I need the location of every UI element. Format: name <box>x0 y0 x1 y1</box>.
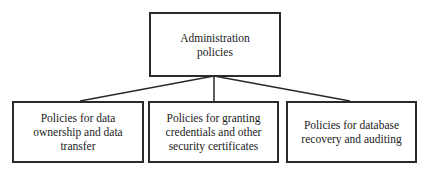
connector-root-right <box>214 76 350 101</box>
connector-root-left <box>80 76 214 101</box>
child-node-database-recovery: Policies for database recovery and audit… <box>286 101 417 163</box>
child-node-1-line-3: transfer <box>29 139 126 153</box>
child-node-2-line-3: security certificates <box>162 139 266 153</box>
child-node-data-ownership: Policies for data ownership and data tra… <box>12 101 144 163</box>
root-node-line-1: Administration <box>176 31 254 45</box>
child-node-2-line-2: credentials and other <box>162 125 266 139</box>
child-node-1-line-1: Policies for data <box>29 111 126 125</box>
root-node-line-2: policies <box>176 45 254 59</box>
child-node-1-line-2: ownership and data <box>29 125 126 139</box>
root-node-administration-policies: Administration policies <box>149 12 281 77</box>
child-node-3-line-2: recovery and auditing <box>297 132 405 146</box>
child-node-2-line-1: Policies for granting <box>162 111 266 125</box>
child-node-granting-credentials: Policies for granting credentials and ot… <box>148 101 279 163</box>
child-node-3-line-1: Policies for database <box>297 118 405 132</box>
